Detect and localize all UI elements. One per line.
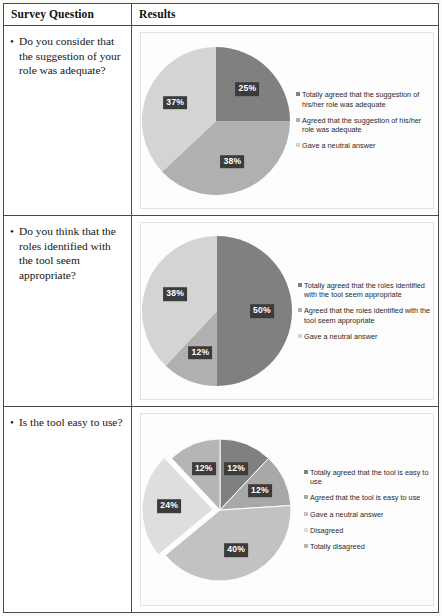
survey-question-text: Is the tool easy to use? <box>19 415 125 430</box>
pie-chart: 25%38%37% <box>141 46 291 196</box>
legend-color-swatch-icon <box>298 334 302 338</box>
legend-color-swatch-icon <box>304 470 308 474</box>
pie-slice-label: 38% <box>220 155 244 169</box>
legend-color-swatch-icon <box>298 283 302 287</box>
legend-label: Agreed that the roles identified with th… <box>304 306 431 324</box>
pie-slice-label: 24% <box>157 499 181 513</box>
survey-question-text: Do you consider that the suggestion of y… <box>19 34 125 78</box>
pie-slice-label: 12% <box>224 462 248 476</box>
chart-plot-area: 25%38%37% Totally agreed that the sugges… <box>140 32 434 209</box>
chart-legend: Totally agreed that the tool is easy to … <box>299 468 433 551</box>
legend-item: Gave a neutral answer <box>298 332 431 341</box>
document-page: Survey Question Results • Do you conside… <box>0 0 442 616</box>
legend-item: Gave a neutral answer <box>304 510 431 519</box>
chart-legend: Totally agreed that the suggestion of hi… <box>291 90 433 150</box>
legend-label: Gave a neutral answer <box>302 141 431 150</box>
legend-color-swatch-icon <box>298 308 302 312</box>
pie-chart: 12%12%40%24%12% <box>141 431 299 589</box>
pie-slice-label: 50% <box>250 304 274 318</box>
pie-slice-label: 25% <box>235 82 259 96</box>
bullet-icon: • <box>10 224 19 282</box>
results-cell: 50%12%38% Totally agreed that the roles … <box>132 216 438 406</box>
chart-plot-area: 12%12%40%24%12% Totally agreed that the … <box>140 413 434 606</box>
table-row: • Do you think that the roles identified… <box>4 216 438 407</box>
legend-item: Totally agreed that the roles identified… <box>298 281 431 299</box>
legend-label: Gave a neutral answer <box>304 332 431 341</box>
pie-chart: 50%12%38% <box>141 235 293 387</box>
legend-item: Totally disagreed <box>304 542 431 551</box>
column-header-survey-question: Survey Question <box>4 4 132 25</box>
legend-color-swatch-icon <box>296 92 300 96</box>
legend-item: Agreed that the roles identified with th… <box>298 306 431 324</box>
legend-color-swatch-icon <box>304 544 308 548</box>
legend-color-swatch-icon <box>296 143 300 147</box>
legend-color-swatch-icon <box>304 512 308 516</box>
table-header-row: Survey Question Results <box>4 4 438 26</box>
survey-results-table: Survey Question Results • Do you conside… <box>3 3 439 613</box>
legend-item: Disagreed <box>304 526 431 535</box>
legend-label: Disagreed <box>310 526 431 535</box>
legend-item: Gave a neutral answer <box>296 141 431 150</box>
pie-slice-label: 37% <box>163 96 187 110</box>
legend-item: Agreed that the suggestion of his/her ro… <box>296 116 431 134</box>
legend-label: Totally disagreed <box>310 542 431 551</box>
table-row: • Is the tool easy to use? 12%12%40%24%1… <box>4 407 438 612</box>
pie-slice-label: 12% <box>248 484 272 498</box>
results-cell: 12%12%40%24%12% Totally agreed that the … <box>132 407 438 612</box>
question-cell: • Is the tool easy to use? <box>4 407 132 612</box>
chart-legend: Totally agreed that the roles identified… <box>293 281 433 341</box>
legend-item: Totally agreed that the tool is easy to … <box>304 468 431 486</box>
legend-label: Totally agreed that the suggestion of hi… <box>302 90 431 108</box>
legend-item: Totally agreed that the suggestion of hi… <box>296 90 431 108</box>
pie-slice-label: 12% <box>192 462 216 476</box>
legend-label: Agreed that the tool is easy to use <box>310 493 431 502</box>
legend-label: Totally agreed that the roles identified… <box>304 281 431 299</box>
chart-plot-area: 50%12%38% Totally agreed that the roles … <box>140 222 434 400</box>
legend-color-swatch-icon <box>296 118 300 122</box>
legend-label: Gave a neutral answer <box>310 510 431 519</box>
pie-slice-label: 38% <box>163 288 187 302</box>
question-cell: • Do you think that the roles identified… <box>4 216 132 406</box>
legend-item: Agreed that the tool is easy to use <box>304 493 431 502</box>
pie-slice-label: 12% <box>189 346 213 360</box>
bullet-icon: • <box>10 34 19 78</box>
legend-color-swatch-icon <box>304 495 308 499</box>
legend-label: Agreed that the suggestion of his/her ro… <box>302 116 431 134</box>
pie-slice-label: 40% <box>224 544 248 558</box>
bullet-icon: • <box>10 415 19 430</box>
legend-label: Totally agreed that the tool is easy to … <box>310 468 431 486</box>
survey-question-text: Do you think that the roles identified w… <box>19 224 125 282</box>
results-cell: 25%38%37% Totally agreed that the sugges… <box>132 26 438 215</box>
column-header-results: Results <box>132 4 438 25</box>
question-cell: • Do you consider that the suggestion of… <box>4 26 132 215</box>
table-row: • Do you consider that the suggestion of… <box>4 26 438 216</box>
legend-color-swatch-icon <box>304 528 308 532</box>
